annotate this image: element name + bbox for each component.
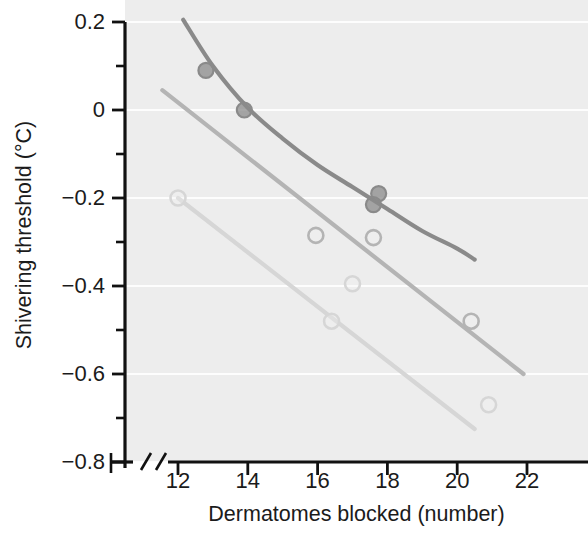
x-axis-label: Dermatomes blocked (number) bbox=[125, 502, 588, 527]
y-tick-label: −0.2 bbox=[0, 185, 105, 211]
y-tick-label: 0 bbox=[0, 97, 105, 123]
y-tick-label: −0.8 bbox=[0, 449, 105, 475]
y-tick-label: −0.6 bbox=[0, 361, 105, 387]
shivering-threshold-scatter-chart: Shivering threshold (°C) 0.20−0.2−0.4−0.… bbox=[0, 0, 588, 535]
x-tick-label: 20 bbox=[427, 468, 487, 494]
x-tick-label: 18 bbox=[357, 468, 417, 494]
x-tick-label: 16 bbox=[288, 468, 348, 494]
y-tick-label: −0.4 bbox=[0, 273, 105, 299]
x-tick-label: 14 bbox=[218, 468, 278, 494]
x-tick-label: 22 bbox=[497, 468, 557, 494]
y-tick-label: 0.2 bbox=[0, 9, 105, 35]
x-tick-label: 12 bbox=[148, 468, 208, 494]
